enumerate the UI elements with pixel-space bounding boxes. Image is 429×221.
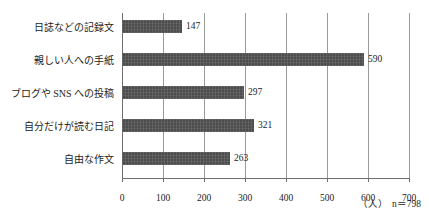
x-axis-tick-label: 500 — [307, 193, 347, 204]
gridline-600 — [368, 13, 369, 178]
x-axis-tick-label: 0 — [102, 193, 142, 204]
x-axis-tick — [286, 178, 287, 182]
x-axis-tick — [122, 178, 123, 182]
horizontal-bar-chart: 日誌などの記録文 親しい人への手紙 ブログや SNS への投稿 自分だけが読む日… — [0, 0, 429, 221]
bar-series-item — [122, 119, 254, 132]
sample-size-label: n＝798 — [392, 199, 421, 209]
x-axis-tick — [409, 178, 410, 182]
bar-series-item — [122, 20, 182, 33]
bar-value-label: 590 — [368, 53, 382, 66]
category-label: ブログや SNS への投稿 — [0, 88, 114, 100]
x-axis-tick — [204, 178, 205, 182]
bar-series-item — [122, 86, 244, 99]
x-axis-tick — [163, 178, 164, 182]
category-axis-labels: 日誌などの記録文 親しい人への手紙 ブログや SNS への投稿 自分だけが読む日… — [0, 13, 118, 178]
gridline-700 — [409, 13, 410, 178]
x-axis-tick-label: 100 — [143, 193, 183, 204]
gridline-500 — [327, 13, 328, 178]
unit-label: （人） — [358, 199, 388, 209]
category-label: 親しい人への手紙 — [0, 55, 114, 67]
bar-value-label: 321 — [258, 119, 272, 132]
x-axis-tick — [368, 178, 369, 182]
x-axis-tick — [245, 178, 246, 182]
x-axis-tick-label: 300 — [225, 193, 265, 204]
x-axis-tick-label: 400 — [266, 193, 306, 204]
plot-area: 147 590 297 321 263 0 100 200 300 400 50… — [122, 13, 409, 178]
bar-series-item — [122, 152, 230, 165]
x-axis-tick — [327, 178, 328, 182]
bar-value-label: 263 — [234, 152, 248, 165]
bar-value-label: 147 — [186, 20, 200, 33]
category-label: 日誌などの記録文 — [0, 22, 114, 34]
category-label: 自由な作文 — [0, 154, 114, 166]
category-label: 自分だけが読む日記 — [0, 121, 114, 133]
x-axis-tick-label: 200 — [184, 193, 224, 204]
bar-value-label: 297 — [248, 86, 262, 99]
bar-series-item — [122, 53, 364, 66]
chart-footnote: （人）n＝798 — [358, 198, 421, 210]
x-axis-line — [122, 178, 409, 179]
gridline-400 — [286, 13, 287, 178]
